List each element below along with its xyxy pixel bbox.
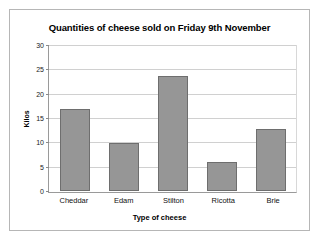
bar-slot	[99, 47, 148, 191]
y-axis-tick-label: 5	[40, 163, 44, 170]
x-axis-tick-label: Stilton	[149, 196, 199, 205]
bar-slot	[246, 47, 295, 191]
bar[interactable]	[109, 143, 139, 191]
bars-group	[50, 47, 295, 191]
x-axis-tick-label: Edam	[99, 196, 149, 205]
x-axis-tick-label: Brie	[248, 196, 298, 205]
y-axis-tick	[46, 94, 49, 95]
y-axis-tick	[46, 45, 49, 46]
bar[interactable]	[207, 162, 237, 191]
x-axis-tick-labels: CheddarEdamStiltonRicottaBrie	[49, 196, 298, 205]
bar-slot	[50, 47, 99, 191]
y-axis-tick	[46, 191, 49, 192]
bar-slot	[148, 47, 197, 191]
chart-frame: Quantities of cheese sold on Friday 9th …	[9, 9, 310, 231]
y-axis-tick-label: 30	[36, 42, 44, 49]
bar[interactable]	[256, 129, 286, 191]
x-axis-title: Type of cheese	[10, 213, 309, 222]
y-axis-tick-label: 0	[40, 188, 44, 195]
y-axis-title: Kilos	[23, 110, 30, 127]
y-axis-tick-label: 15	[36, 115, 44, 122]
bar[interactable]	[158, 76, 188, 191]
y-axis-tick	[46, 118, 49, 119]
chart-title: Quantities of cheese sold on Friday 9th …	[10, 22, 309, 33]
gridline: 0	[49, 191, 296, 192]
plot-area: 051015202530	[48, 45, 297, 193]
x-axis-tick-label: Cheddar	[49, 196, 99, 205]
bar[interactable]	[60, 109, 90, 191]
y-axis-tick-label: 25	[36, 66, 44, 73]
y-axis-tick-label: 10	[36, 139, 44, 146]
y-axis-tick-label: 20	[36, 90, 44, 97]
bar-slot	[197, 47, 246, 191]
x-axis-tick-label: Ricotta	[198, 196, 248, 205]
y-axis-tick	[46, 167, 49, 168]
plot-wrapper: Kilos 051015202530	[48, 45, 297, 193]
gridline: 30	[49, 45, 296, 46]
y-axis-tick	[46, 142, 49, 143]
y-axis-tick	[46, 69, 49, 70]
